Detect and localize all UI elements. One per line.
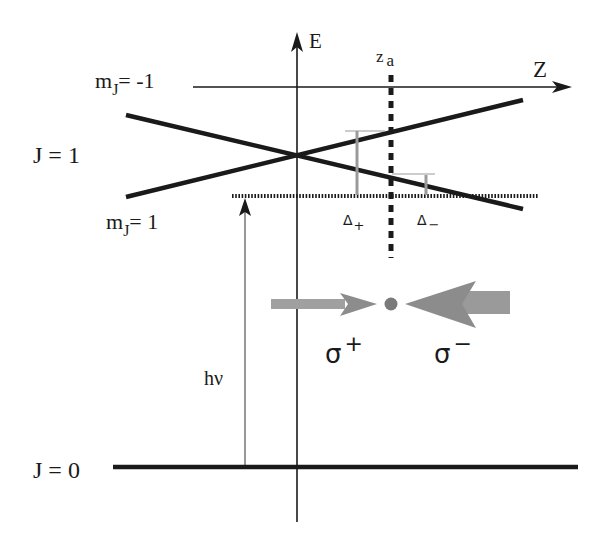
zeeman-sublevels <box>126 100 523 209</box>
za-label: za <box>376 47 395 70</box>
photon-energy-label: hν <box>204 367 223 389</box>
sigma-plus-arrow-icon <box>340 293 377 316</box>
atom-dot <box>385 298 398 311</box>
mot-energy-level-diagram: E Z za Δ+ Δ− mJ= -1 J = 1 <box>0 0 593 543</box>
mj-plus-1-label: mJ= 1 <box>106 209 158 239</box>
sigma-minus-label: σ− <box>434 331 472 369</box>
j0-label: J = 0 <box>33 457 80 483</box>
mj-plus-1-line <box>126 100 523 197</box>
detuning-delta-plus: Δ+ <box>343 131 385 233</box>
position-axis-label: Z <box>533 57 547 82</box>
sigma-minus-beam: σ− <box>405 281 510 369</box>
delta-plus-label: Δ+ <box>343 212 364 233</box>
mj-minus-1-label: mJ= -1 <box>95 68 155 98</box>
za-marker: za <box>376 47 395 258</box>
energy-axis-label: E <box>309 29 322 53</box>
sigma-plus-beam: σ+ <box>271 293 377 369</box>
energy-axis: E <box>291 29 322 522</box>
photon-energy-arrow: hν <box>204 198 251 467</box>
j1-label: J = 1 <box>33 142 80 168</box>
delta-minus-label: Δ− <box>417 212 439 232</box>
sigma-plus-label: σ+ <box>325 331 363 369</box>
ground-level: J = 0 <box>33 457 578 483</box>
